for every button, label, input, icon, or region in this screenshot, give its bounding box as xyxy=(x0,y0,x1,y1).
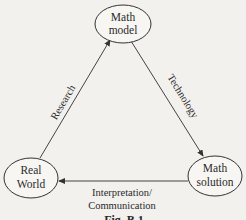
real-world-label-line1: Real xyxy=(20,164,41,176)
edge-interpretation: Interpretation/ Communication xyxy=(59,181,188,211)
modeling-cycle-diagram: Research Technology Interpretation/ Comm… xyxy=(0,0,246,220)
real-world-label-line2: World xyxy=(17,178,46,190)
node-math-model: Math model xyxy=(95,5,151,43)
math-solution-label-line2: solution xyxy=(196,176,233,188)
technology-label: Technology xyxy=(165,72,201,120)
research-arrow xyxy=(40,40,110,158)
figure-caption: Fig. B.1 xyxy=(104,213,144,220)
interpretation-label-line1: Interpretation/ xyxy=(92,187,152,198)
node-math-solution: Math solution xyxy=(188,156,242,196)
interpretation-label-line2: Communication xyxy=(88,200,156,211)
math-model-label-line1: Math xyxy=(111,11,136,23)
edge-research: Research xyxy=(40,40,110,158)
node-real-world: Real World xyxy=(4,158,58,198)
math-solution-label-line1: Math xyxy=(203,162,228,174)
technology-arrow xyxy=(131,41,203,156)
edge-technology: Technology xyxy=(131,41,203,156)
math-model-label-line2: model xyxy=(109,24,138,36)
